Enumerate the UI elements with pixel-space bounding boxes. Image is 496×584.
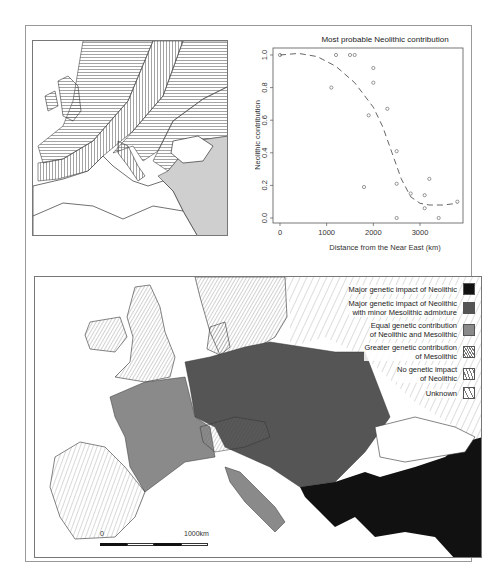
legend-item: Major genetic impact of Neolithicwith mi… xyxy=(315,299,475,317)
legend-label: Unknown xyxy=(426,389,457,398)
data-point xyxy=(367,114,370,117)
x-tick-label: 2000 xyxy=(365,228,382,237)
data-point xyxy=(386,107,389,110)
y-tick-label: 0.8 xyxy=(260,82,269,92)
scale-bar: 0 1000km xyxy=(100,530,210,550)
data-point xyxy=(423,207,426,210)
legend-swatch-icon xyxy=(463,302,475,314)
legend-swatch-icon xyxy=(463,368,475,380)
data-point xyxy=(334,53,337,56)
legend-swatch-icon xyxy=(463,283,475,295)
legend-item: Equal genetic contributionof Neolithic a… xyxy=(315,321,475,339)
x-tick-label: 3000 xyxy=(412,228,429,237)
y-tick-label: 1.0 xyxy=(260,50,269,60)
data-point xyxy=(395,216,398,219)
x-axis: 0100020003000 xyxy=(278,223,428,237)
legend-label: Major genetic impact of Neolithicwith mi… xyxy=(349,299,457,317)
legend-swatch-icon xyxy=(463,346,475,358)
top-left-gradient-map xyxy=(32,40,228,236)
map-legend: Major genetic impact of NeolithicMajor g… xyxy=(315,283,475,403)
x-axis-label: Distance from the Near East (km) xyxy=(329,243,441,252)
legend-swatch-icon xyxy=(463,324,475,336)
europe-genetic-impact-map: Major genetic impact of NeolithicMajor g… xyxy=(34,276,482,558)
data-point xyxy=(409,192,412,195)
legend-label: Greater genetic contributionof Mesolithi… xyxy=(364,343,457,361)
data-point xyxy=(330,86,333,89)
legend-item: No genetic impactof Neolithic xyxy=(315,365,475,383)
data-point xyxy=(372,66,375,69)
legend-label: No genetic impactof Neolithic xyxy=(397,365,457,383)
fitted-curve xyxy=(280,53,457,205)
data-point xyxy=(362,185,365,188)
legend-label: Equal genetic contributionof Neolithic a… xyxy=(370,321,457,339)
data-point xyxy=(428,177,431,180)
legend-item: Major genetic impact of Neolithic xyxy=(315,283,475,295)
y-tick-label: 0.0 xyxy=(260,213,269,223)
legend-item: Greater genetic contributionof Mesolithi… xyxy=(315,343,475,361)
y-axis-label: Neolithic contribution xyxy=(255,100,262,170)
data-point xyxy=(348,53,351,56)
data-point xyxy=(353,53,356,56)
legend-item: Unknown xyxy=(315,387,475,399)
data-point xyxy=(437,216,440,219)
x-tick-label: 0 xyxy=(278,228,282,237)
plot-area xyxy=(273,48,463,223)
data-point xyxy=(395,182,398,185)
scale-end-label: 1000km xyxy=(184,530,209,537)
data-point xyxy=(395,150,398,153)
data-point xyxy=(372,81,375,84)
x-tick-label: 1000 xyxy=(318,228,335,237)
data-points xyxy=(278,53,459,219)
scale-start-label: 0 xyxy=(100,530,104,537)
y-tick-label: 0.2 xyxy=(260,180,269,190)
legend-label: Major genetic impact of Neolithic xyxy=(349,285,457,294)
neolithic-contribution-scatter-plot: Most probable Neolithic contribution 010… xyxy=(255,30,495,255)
legend-swatch-icon xyxy=(463,387,475,399)
data-point xyxy=(456,200,459,203)
chart-title: Most probable Neolithic contribution xyxy=(321,35,448,44)
data-point xyxy=(423,194,426,197)
